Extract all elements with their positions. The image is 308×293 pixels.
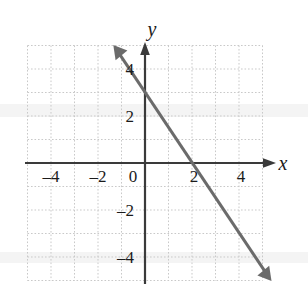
x-tick-label-2: 2 (190, 167, 199, 186)
origin-label: 0 (129, 167, 138, 186)
y-tick-label-4: 4 (126, 60, 135, 79)
y-tick-label-neg4: –4 (116, 248, 135, 267)
y-tick-label-neg2: –2 (116, 201, 134, 220)
x-axis-label: x (278, 152, 288, 174)
x-tick-label-neg2: –2 (89, 167, 107, 186)
x-axis-arrowhead (263, 158, 276, 168)
axis-lines (25, 50, 268, 284)
y-tick-label-2: 2 (126, 107, 135, 126)
x-tick-label-4: 4 (237, 167, 246, 186)
graph-figure: x y –4 –2 2 4 0 4 2 –2 –4 (0, 0, 308, 293)
y-axis-arrowhead (140, 42, 150, 55)
y-axis-label: y (146, 18, 157, 41)
coordinate-plane: x y –4 –2 2 4 0 4 2 –2 –4 (0, 0, 308, 293)
x-tick-label-neg4: –4 (42, 167, 61, 186)
